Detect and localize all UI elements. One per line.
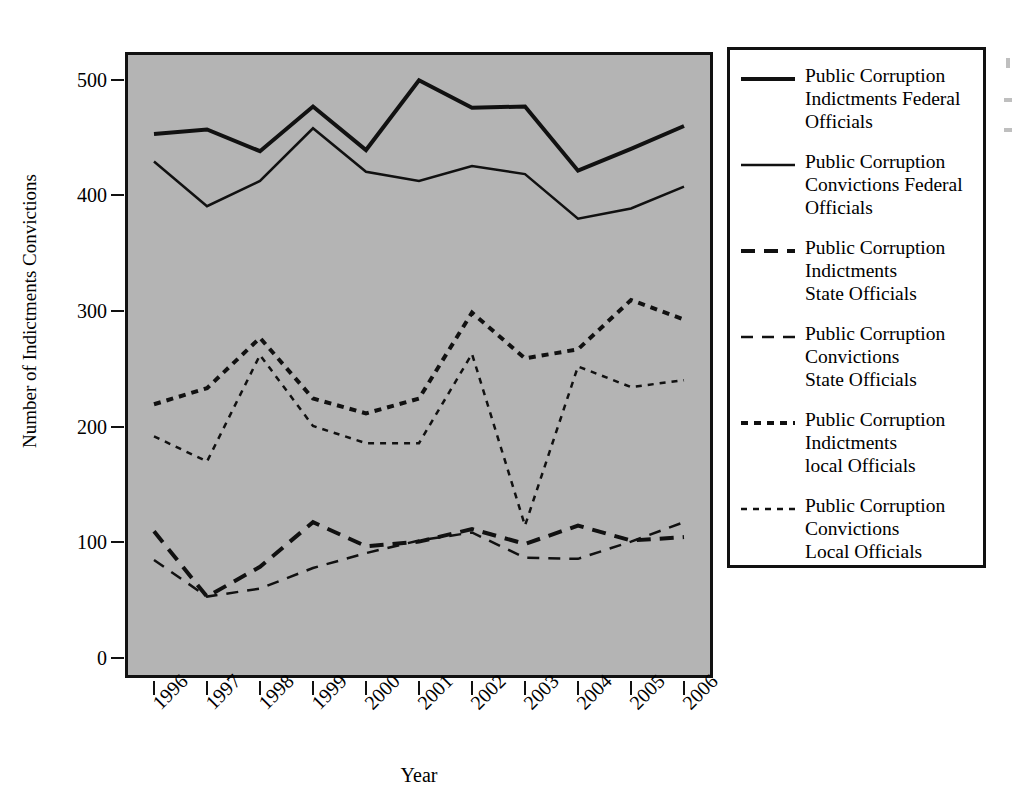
- y-tick-mark: [111, 541, 124, 543]
- y-tick-mark: [111, 426, 124, 428]
- scan-artifact: [1006, 58, 1010, 68]
- legend-item-label: Public Corruption Convictions State Offi…: [805, 322, 945, 391]
- series-line: [154, 80, 684, 170]
- legend-item-label: Public Corruption Convictions Federal Of…: [805, 150, 963, 219]
- legend-item-label: Public Corruption Indictments Federal Of…: [805, 64, 960, 133]
- legend: Public Corruption Indictments Federal Of…: [727, 47, 986, 568]
- legend-line-icon: [740, 68, 796, 90]
- y-tick-label: 200: [47, 417, 107, 437]
- y-tick-label: 300: [47, 301, 107, 321]
- x-axis-title: Year: [125, 764, 713, 787]
- y-tick-mark: [111, 79, 124, 81]
- y-tick-label: 400: [47, 185, 107, 205]
- series-canvas: [128, 55, 710, 675]
- series-line: [154, 300, 684, 413]
- y-tick-label: 0: [47, 648, 107, 668]
- legend-item[interactable]: Public Corruption Indictments Federal Of…: [740, 64, 973, 133]
- y-tick-label: 500: [47, 70, 107, 90]
- y-axis-title: Number of Indictments Convictions: [19, 111, 41, 511]
- y-tick-mark: [111, 194, 124, 196]
- legend-item[interactable]: Public Corruption Convictions Local Offi…: [740, 494, 973, 563]
- legend-line-icon: [740, 412, 796, 434]
- plot-area: [125, 52, 713, 678]
- series-line: [154, 354, 684, 526]
- legend-line-icon: [740, 326, 796, 348]
- legend-line-icon: [740, 498, 796, 520]
- legend-item-label: Public Corruption Indictments local Offi…: [805, 408, 945, 477]
- legend-item[interactable]: Public Corruption Convictions State Offi…: [740, 322, 973, 391]
- legend-item[interactable]: Public Corruption Indictments local Offi…: [740, 408, 973, 477]
- y-tick-label: 100: [47, 532, 107, 552]
- scan-artifact: [1004, 98, 1012, 102]
- legend-item[interactable]: Public Corruption Indictments State Offi…: [740, 236, 973, 305]
- legend-line-icon: [740, 240, 796, 262]
- series-line: [154, 522, 684, 596]
- y-tick-mark: [111, 310, 124, 312]
- scan-artifact: [1004, 128, 1012, 132]
- legend-line-icon: [740, 154, 796, 176]
- legend-item-label: Public Corruption Convictions Local Offi…: [805, 494, 945, 563]
- legend-item[interactable]: Public Corruption Convictions Federal Of…: [740, 150, 973, 219]
- legend-item-label: Public Corruption Indictments State Offi…: [805, 236, 945, 305]
- y-tick-mark: [111, 657, 124, 659]
